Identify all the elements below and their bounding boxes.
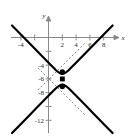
y-axis-label: y bbox=[41, 12, 46, 20]
upper-branch-curve bbox=[12, 26, 113, 75]
y-tick-labels: -4 -6 -8 -12 bbox=[35, 62, 45, 125]
y-tick-label--6: -6 bbox=[38, 75, 44, 83]
vertex-lower-dot bbox=[60, 84, 65, 89]
plot-canvas: x y -4 2 4 6 8 bbox=[0, 0, 134, 136]
lower-branch-curve bbox=[12, 85, 113, 134]
center-square-marker bbox=[60, 77, 65, 82]
hyperbola-figure: . x y -4 2 4 6 8 bbox=[0, 0, 134, 136]
y-axis-group: y bbox=[41, 12, 50, 133]
x-axis-label: x bbox=[120, 34, 125, 42]
y-tick-label--12: -12 bbox=[35, 117, 45, 125]
asymptote-negative-slope bbox=[38, 42, 86, 90]
asymptote-positive-slope bbox=[38, 68, 86, 116]
vertex-upper-dot bbox=[60, 69, 65, 74]
marker-group bbox=[60, 69, 65, 89]
x-tick-label--4: -4 bbox=[18, 41, 24, 49]
y-tick-label--8: -8 bbox=[38, 89, 44, 97]
x-tick-label-2: 2 bbox=[61, 41, 65, 49]
y-axis-arrow bbox=[46, 16, 50, 21]
x-tick-label-8: 8 bbox=[102, 41, 106, 49]
x-axis-arrow bbox=[114, 35, 119, 39]
y-tick-label--4: -4 bbox=[38, 62, 44, 70]
x-tick-label-4: 4 bbox=[74, 41, 78, 49]
